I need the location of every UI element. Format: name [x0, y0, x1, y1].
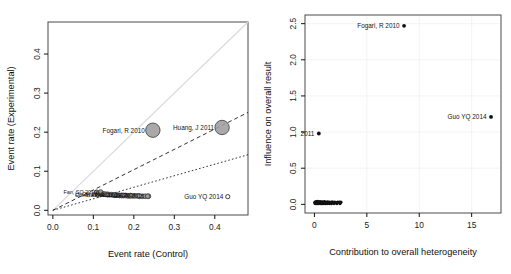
left-xtick-label: 0.3 [168, 222, 180, 232]
right-baujat-panel: 0510150.00.51.01.52.02.5Contribution to … [255, 0, 511, 274]
right-point-2011 [317, 132, 321, 136]
right-cluster-dot [338, 202, 341, 205]
right-point-guo-yq-2014 [489, 115, 493, 119]
right-ytick-label: 0.5 [288, 162, 298, 174]
right-xtick-label: 15 [467, 220, 477, 230]
left-chart-svg: 0.00.10.20.30.40.00.10.20.30.4Event rate… [0, 0, 256, 274]
left-point-label: Sun, M 2015 [114, 193, 145, 199]
left-bubble-huang-j-2011 [215, 120, 229, 134]
right-point-label: Fogari, R 2010 [357, 22, 400, 30]
right-ytick-label: 2.5 [288, 18, 298, 30]
left-cluster-bubble [145, 194, 150, 199]
left-ytick-label: 0.2 [32, 126, 42, 138]
left-ytick-label: 0.3 [32, 87, 42, 99]
left-yaxis-title: Event rate (Experimental) [6, 66, 16, 170]
left-ytick-label: 0.1 [32, 165, 42, 177]
figure-container: 0.00.10.20.30.40.00.10.20.30.4Event rate… [0, 0, 511, 274]
identity-line [53, 22, 248, 210]
left-xtick-label: 0.0 [47, 222, 59, 232]
left-xtick-label: 0.2 [128, 222, 140, 232]
right-cluster-dot [332, 202, 335, 205]
left-point-label: Huang, J 2011 [173, 124, 215, 132]
right-ytick-label: 1.0 [288, 126, 298, 138]
left-dot-guo [226, 195, 230, 199]
right-ytick-label: 1.5 [288, 90, 298, 102]
left-scatter-panel: 0.00.10.20.30.40.00.10.20.30.4Event rate… [0, 0, 256, 274]
right-point-fogari-r-2010 [402, 24, 406, 28]
right-xtick-label: 0 [312, 220, 317, 230]
left-xtick-label: 0.1 [88, 222, 100, 232]
left-ytick-label: 0.0 [32, 204, 42, 216]
right-cluster-dot [335, 202, 338, 205]
right-ytick-label: 0.0 [288, 198, 298, 210]
right-point-label: 2011 [301, 130, 315, 137]
left-ytick-label: 0.4 [32, 48, 42, 60]
right-point-label: Guo YQ 2014 [448, 113, 487, 121]
right-yaxis-title: Influence on overall result [263, 61, 273, 166]
left-bubble-fogari-r-2010 [146, 123, 160, 137]
left-point-label: Fogari, R 2010 [103, 127, 146, 135]
right-xtick-label: 10 [415, 220, 425, 230]
figure-caption [0, 258, 511, 274]
right-chart-svg: 0510150.00.51.01.52.02.5Contribution to … [255, 0, 511, 274]
left-xtick-label: 0.4 [209, 222, 221, 232]
right-xaxis-title: Contribution to overall heterogeneity [329, 247, 477, 257]
right-ytick-label: 2.0 [288, 54, 298, 66]
left-point-label: Guo YQ 2014 [184, 193, 223, 201]
right-xtick-label: 5 [365, 220, 370, 230]
